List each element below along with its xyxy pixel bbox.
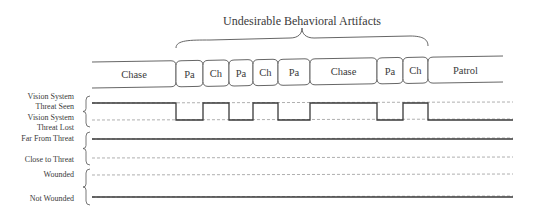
state-label: Chase	[331, 66, 357, 77]
signal-label-high: Vision System	[28, 92, 75, 101]
timing-diagram: Undesirable Behavioral Artifacts ChasePa…	[0, 0, 540, 219]
state-segment: Pa	[176, 60, 203, 86]
reference-line-high	[92, 174, 513, 175]
signal-brace	[83, 96, 90, 127]
state-segment: Chase	[92, 61, 176, 88]
state-label: Pa	[236, 68, 247, 79]
signal-traces	[92, 102, 513, 197]
signal-brace	[83, 169, 90, 205]
signal-label-high: Threat Seen	[36, 102, 74, 111]
state-label: Pa	[385, 66, 396, 77]
state-segment: Ch	[403, 57, 428, 83]
state-label: Pa	[289, 67, 300, 78]
signal-label-low: Threat Lost	[37, 123, 75, 132]
state-segment: Pa	[229, 60, 253, 86]
state-segment: Ch	[253, 59, 278, 85]
signal-distance	[92, 138, 513, 158]
signal-trace	[92, 103, 513, 120]
state-label: Ch	[210, 68, 223, 79]
state-segment: Pa	[377, 57, 403, 83]
signal-label-low: Vision System	[28, 113, 75, 122]
state-label: Pa	[184, 69, 195, 80]
signal-health	[92, 174, 513, 197]
state-segment: Pa	[278, 59, 310, 85]
signal-label-low: Not Wounded	[30, 194, 74, 203]
signal-label-high: Far From Threat	[21, 134, 75, 143]
state-bar: ChasePaChPaChPaChasePaChPatrol	[92, 56, 503, 88]
state-segment: Ch	[203, 60, 229, 86]
diagram-title: Undesirable Behavioral Artifacts	[223, 14, 381, 28]
state-label: Chase	[121, 69, 147, 80]
signal-labels: Vision SystemThreat SeenVision SystemThr…	[21, 92, 90, 205]
signal-label-high: Wounded	[44, 170, 74, 179]
reference-line-low	[92, 157, 513, 158]
artifacts-brace	[176, 28, 428, 48]
signal-brace	[83, 132, 90, 165]
state-label: Patrol	[453, 65, 478, 76]
state-segment: Chase	[310, 58, 377, 85]
signal-label-low: Close to Threat	[25, 155, 75, 164]
signal-vision	[92, 102, 513, 120]
state-label: Ch	[259, 67, 272, 78]
state-segment: Patrol	[428, 56, 503, 83]
state-label: Ch	[409, 65, 422, 76]
